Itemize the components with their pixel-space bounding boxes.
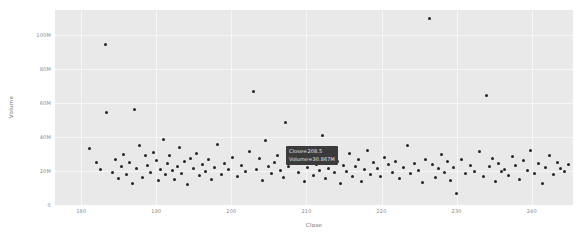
data-point[interactable] [460,158,463,161]
data-point[interactable] [204,170,207,173]
data-point[interactable] [155,159,158,162]
data-point[interactable] [417,169,420,172]
data-point[interactable] [455,192,458,195]
data-point[interactable] [157,179,160,182]
data-point[interactable] [207,158,210,161]
data-point[interactable] [111,171,114,174]
data-point[interactable] [402,166,405,169]
data-point[interactable] [138,144,141,147]
data-point[interactable] [149,171,152,174]
data-point[interactable] [351,175,354,178]
data-point[interactable] [485,94,488,97]
data-point[interactable] [210,178,213,181]
data-point[interactable] [258,157,261,160]
data-point[interactable] [312,174,315,177]
data-point[interactable] [173,178,176,181]
data-point[interactable] [469,164,472,167]
data-point[interactable] [198,174,201,177]
data-point[interactable] [552,173,555,176]
data-point[interactable] [437,167,440,170]
data-point[interactable] [372,161,375,164]
data-point[interactable] [240,164,243,167]
data-point[interactable] [261,179,264,182]
data-point[interactable] [339,182,342,185]
data-point[interactable] [144,154,147,157]
data-point[interactable] [164,173,167,176]
data-point[interactable] [345,170,348,173]
data-point[interactable] [178,146,181,149]
data-point[interactable] [383,156,386,159]
data-point[interactable] [279,169,282,172]
data-point[interactable] [428,17,431,20]
data-point[interactable] [391,171,394,174]
data-point[interactable] [105,111,108,114]
data-point[interactable] [514,164,517,167]
data-point[interactable] [104,43,107,46]
data-point[interactable] [537,162,540,165]
data-point[interactable] [440,153,443,156]
data-point[interactable] [541,182,544,185]
data-point[interactable] [507,174,510,177]
data-point[interactable] [321,134,324,137]
data-point[interactable] [120,165,123,168]
data-point[interactable] [282,176,285,179]
data-point[interactable] [252,90,255,93]
data-point[interactable] [95,161,98,164]
data-point[interactable] [189,157,192,160]
data-point[interactable] [394,160,397,163]
data-point[interactable] [192,167,195,170]
data-point[interactable] [376,167,379,170]
data-point[interactable] [452,166,455,169]
data-point[interactable] [406,144,409,147]
data-point[interactable] [503,168,506,171]
data-point[interactable] [354,165,357,168]
data-point[interactable] [333,171,336,174]
data-point[interactable] [131,182,134,185]
data-point[interactable] [563,170,566,173]
data-point[interactable] [133,108,136,111]
data-point[interactable] [88,147,91,150]
data-point[interactable] [548,154,551,157]
data-point[interactable] [231,156,234,159]
data-point[interactable] [270,172,273,175]
data-point[interactable] [114,158,117,161]
data-point[interactable] [544,166,547,169]
data-point[interactable] [171,169,174,172]
data-point[interactable] [559,167,562,170]
data-point[interactable] [494,180,497,183]
data-point[interactable] [478,150,481,153]
data-point[interactable] [473,170,476,173]
data-point[interactable] [482,175,485,178]
data-point[interactable] [303,180,306,183]
data-point[interactable] [449,179,452,182]
data-point[interactable] [168,154,171,157]
data-point[interactable] [180,172,183,175]
data-point[interactable] [434,176,437,179]
data-point[interactable] [446,160,449,163]
data-point[interactable] [135,167,138,170]
data-point[interactable] [533,172,536,175]
data-point[interactable] [443,171,446,174]
data-point[interactable] [409,172,412,175]
data-point[interactable] [213,166,216,169]
data-point[interactable] [366,149,369,152]
data-point[interactable] [324,177,327,180]
data-point[interactable] [398,177,401,180]
data-point[interactable] [518,178,521,181]
data-point[interactable] [162,138,165,141]
data-point[interactable] [146,164,149,167]
data-point[interactable] [195,152,198,155]
data-point[interactable] [342,164,345,167]
data-point[interactable] [236,175,239,178]
data-point[interactable] [248,150,251,153]
data-point[interactable] [360,180,363,183]
data-point[interactable] [431,163,434,166]
data-point[interactable] [152,151,155,154]
data-point[interactable] [267,165,270,168]
data-point[interactable] [387,163,390,166]
data-point[interactable] [264,139,267,142]
data-point[interactable] [223,162,226,165]
data-point[interactable] [522,159,525,162]
data-point[interactable] [186,183,189,186]
data-point[interactable] [255,168,258,171]
